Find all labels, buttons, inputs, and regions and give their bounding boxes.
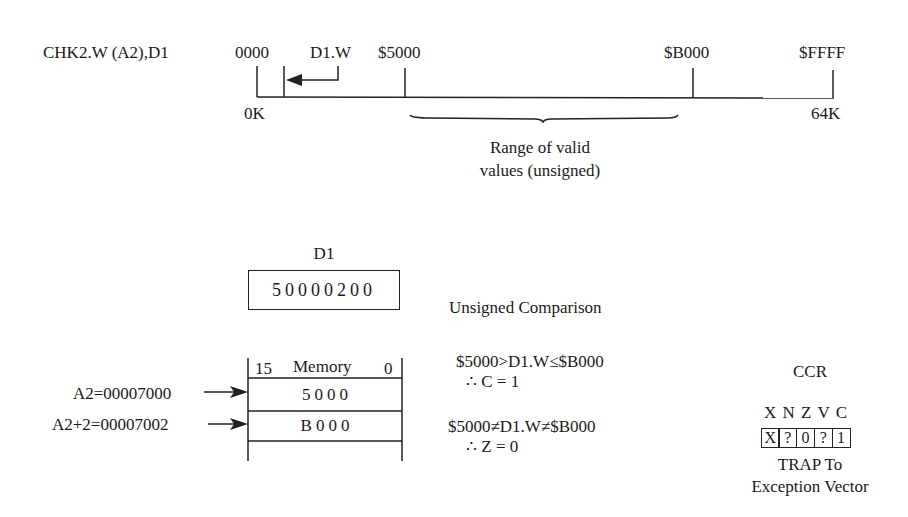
- flag-value-v: ?: [814, 428, 833, 448]
- range-caption-line1: Range of valid: [470, 139, 610, 156]
- map-start-label: 0000: [235, 44, 269, 61]
- ccr-register: X ? 0 ? 1: [762, 428, 851, 448]
- ccr-result-line2: Exception Vector: [740, 478, 880, 495]
- carry-result: ∴ C = 1: [466, 373, 519, 390]
- map-lower-bound-label: $5000: [378, 44, 421, 61]
- map-end-label: $FFFF: [799, 44, 845, 61]
- flag-value-c: 1: [832, 428, 851, 448]
- register-value: 50000200: [272, 280, 376, 301]
- memory-row-value: 5000: [252, 386, 402, 403]
- register-name: D1: [294, 245, 354, 262]
- memory-map-axis: [257, 66, 834, 98]
- flag-name-v: V: [817, 403, 830, 422]
- map-upper-bound-label: $B000: [664, 44, 709, 61]
- memory-title: Memory: [293, 358, 352, 375]
- ccr-flag-names: X N Z V C: [764, 404, 848, 421]
- ccr-result-line1: TRAP To: [760, 456, 860, 473]
- register-d1-box: 50000200: [248, 270, 400, 310]
- map-end-size: 64K: [811, 105, 840, 122]
- flag-name-c: C: [836, 403, 848, 422]
- flag-value-n: ?: [778, 428, 797, 448]
- map-d1w-label: D1.W: [310, 44, 351, 61]
- ccr-title: CCR: [770, 363, 850, 380]
- flag-name-x: X: [764, 403, 777, 422]
- range-caption-line2: values (unsigned): [450, 162, 630, 179]
- memory-row-address: A2+2=00007002: [52, 416, 168, 433]
- map-start-size: 0K: [244, 105, 265, 122]
- zero-test: $5000≠D1.W≠$B000: [448, 418, 596, 435]
- memory-row-address: A2=00007000: [73, 385, 171, 402]
- comparison-title: Unsigned Comparison: [449, 299, 602, 316]
- flag-name-z: Z: [801, 403, 812, 422]
- memory-row-value: B000: [252, 417, 402, 434]
- carry-test: $5000>D1.W≤$B000: [456, 353, 604, 370]
- range-brace: [410, 115, 678, 122]
- memory-low-bit: 0: [384, 360, 393, 377]
- zero-result: ∴ Z = 0: [466, 438, 518, 455]
- instruction-label: CHK2.W (A2),D1: [43, 44, 169, 61]
- flag-value-z: 0: [796, 428, 815, 448]
- flag-value-x: X: [761, 428, 780, 448]
- memory-high-bit: 15: [255, 360, 272, 377]
- flag-name-n: N: [783, 403, 796, 422]
- d1w-arrowhead-icon: [286, 74, 302, 86]
